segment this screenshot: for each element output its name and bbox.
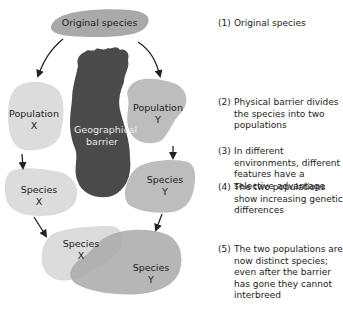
population-y-line2: Y (155, 114, 161, 125)
species-x-label: Species X (14, 184, 64, 208)
arrow-species-y-to-final (156, 214, 162, 230)
species-x-line2: X (36, 196, 43, 207)
barrier-label-line2: barrier (86, 136, 118, 147)
step-2-number: (2) (218, 97, 231, 109)
step-1-text: Original species (218, 18, 343, 30)
population-y-line1: Population (133, 102, 183, 113)
final-species-x-line1: Species (63, 238, 100, 249)
species-x-line1: Species (21, 184, 58, 195)
population-x-line2: X (31, 120, 38, 131)
step-2-text: Physical barrier divides the species int… (218, 97, 343, 132)
final-species-y-line1: Species (133, 262, 170, 273)
species-y-line2: Y (162, 186, 168, 197)
step-4-text: The two populations show increasing gene… (218, 182, 343, 217)
arrow-original-to-pop-y (138, 42, 160, 76)
arrow-original-to-pop-x (38, 39, 63, 76)
step-5: (5) The two populations are now distinct… (218, 244, 343, 302)
step-2: (2) Physical barrier divides the species… (218, 97, 343, 132)
barrier-label-line1: Geographical (74, 124, 137, 135)
step-1-number: (1) (218, 18, 231, 30)
species-y-line1: Species (147, 174, 184, 185)
final-species-x-label: Species X (56, 238, 106, 262)
arrow-pop-x-to-species-x (22, 154, 23, 168)
population-y-label: Population Y (130, 102, 186, 126)
final-species-y-line2: Y (148, 274, 154, 285)
population-x-line1: Population (9, 108, 59, 119)
original-species-label: Original species (52, 17, 147, 29)
final-species-y-label: Species Y (126, 262, 176, 286)
barrier-label: Geographical barrier (74, 124, 130, 148)
geographical-barrier-shape (70, 47, 130, 197)
population-x-label: Population X (8, 108, 60, 132)
step-1: (1) Original species (218, 18, 343, 30)
final-species-x-line2: X (78, 250, 85, 261)
arrow-species-x-to-final (34, 217, 46, 236)
step-5-number: (5) (218, 244, 231, 256)
species-y-label: Species Y (140, 174, 190, 198)
step-4-number: (4) (218, 182, 231, 194)
step-4: (4) The two populations show increasing … (218, 182, 343, 217)
step-5-text: The two populations are now distinct spe… (218, 244, 343, 302)
step-3-number: (3) (218, 146, 231, 158)
